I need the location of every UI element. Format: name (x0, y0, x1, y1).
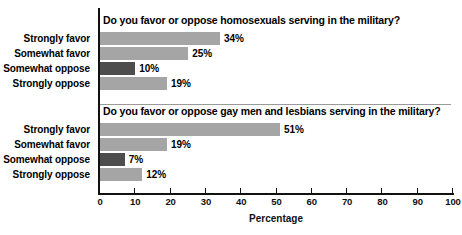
bar-rows-gay-men-and-lesbians: Strongly favor 51% Somewhat favor 19% So… (0, 123, 462, 183)
bar-strongly-favor (100, 32, 220, 45)
x-axis-tick-label: 70 (334, 196, 360, 207)
bar-row: Strongly favor 34% (0, 32, 462, 47)
x-axis-tick (452, 188, 453, 193)
x-axis-tick (134, 188, 135, 193)
x-axis-tick (417, 188, 418, 193)
panel-title-gay-men-and-lesbians: Do you favor or oppose gay men and lesbi… (103, 105, 441, 117)
bar-value-somewhat-oppose: 7% (129, 154, 143, 165)
x-axis-tick (346, 188, 347, 193)
category-label-somewhat-favor: Somewhat favor (0, 139, 90, 150)
x-axis-tick-label: 60 (299, 196, 325, 207)
category-label-somewhat-oppose: Somewhat oppose (0, 154, 90, 165)
x-axis-tick (240, 188, 241, 193)
panel-title-homosexuals: Do you favor or oppose homosexuals servi… (103, 14, 400, 26)
x-axis-tick (381, 188, 382, 193)
bar-value-strongly-oppose: 19% (171, 78, 191, 89)
bar-somewhat-favor (100, 47, 188, 60)
category-label-strongly-oppose: Strongly oppose (0, 169, 90, 180)
category-label-somewhat-favor: Somewhat favor (0, 48, 90, 59)
bar-rows-homosexuals: Strongly favor 34% Somewhat favor 25% So… (0, 32, 462, 92)
bar-somewhat-favor (100, 138, 167, 151)
bar-value-somewhat-oppose: 10% (139, 63, 159, 74)
x-axis-tick-label: 30 (193, 196, 219, 207)
bar-strongly-oppose (100, 168, 142, 181)
panel-title-part1: Do you favor or oppose (103, 105, 220, 117)
bar-somewhat-oppose (100, 153, 125, 166)
category-label-strongly-oppose: Strongly oppose (0, 78, 90, 89)
x-axis-tick-label: 20 (158, 196, 184, 207)
bar-row: Somewhat oppose 7% (0, 153, 462, 168)
bar-value-somewhat-favor: 19% (171, 139, 191, 150)
x-axis-tick-label: 40 (228, 196, 254, 207)
category-label-somewhat-oppose: Somewhat oppose (0, 63, 90, 74)
bar-row: Somewhat favor 19% (0, 138, 462, 153)
bar-row: Strongly oppose 19% (0, 77, 462, 92)
x-axis-tick (99, 188, 100, 193)
x-axis-tick-label: 100 (440, 196, 462, 207)
bar-row: Somewhat oppose 10% (0, 62, 462, 77)
x-axis-tick-label: 0 (87, 196, 113, 207)
bar-row: Somewhat favor 25% (0, 47, 462, 62)
panel-title-emphasis: gay men and lesbians (220, 105, 326, 117)
x-axis-tick-label: 80 (369, 196, 395, 207)
survey-bar-chart: Do you favor or oppose homosexuals servi… (0, 0, 462, 235)
x-axis-tick (205, 188, 206, 193)
x-axis-tick (276, 188, 277, 193)
x-axis-tick (311, 188, 312, 193)
x-axis-tick-label: 10 (122, 196, 148, 207)
bar-row: Strongly oppose 12% (0, 168, 462, 183)
bar-row: Strongly favor 51% (0, 123, 462, 138)
x-axis-tick (170, 188, 171, 193)
y-axis-line (98, 8, 100, 195)
panel-title-emphasis: homosexuals (220, 14, 285, 26)
x-axis-tick-label: 90 (405, 196, 431, 207)
x-axis-tick-label: 50 (264, 196, 290, 207)
bar-value-strongly-favor: 51% (284, 124, 304, 135)
x-axis-line (98, 193, 454, 195)
panel-title-part1: Do you favor or oppose (103, 14, 220, 26)
category-label-strongly-favor: Strongly favor (0, 124, 90, 135)
category-label-strongly-favor: Strongly favor (0, 33, 90, 44)
bar-somewhat-oppose (100, 62, 135, 75)
panel-title-part2: serving in the military? (286, 14, 400, 26)
bar-value-somewhat-favor: 25% (192, 48, 212, 59)
bar-strongly-oppose (100, 77, 167, 90)
bar-value-strongly-oppose: 12% (146, 169, 166, 180)
bar-value-strongly-favor: 34% (224, 33, 244, 44)
x-axis-title: Percentage (98, 213, 454, 224)
bar-strongly-favor (100, 123, 280, 136)
panel-title-part2: serving in the military? (326, 105, 440, 117)
